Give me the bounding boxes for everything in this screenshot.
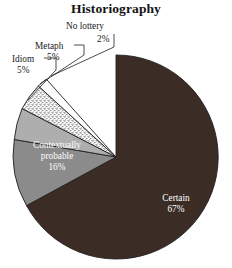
pie-chart-figure: Historiography No lottery 2% Metaph (0, 0, 232, 268)
slice-value-metaph: 5% (47, 52, 59, 62)
slice-value-no-lottery: 2% (97, 34, 109, 44)
slice-label-no-lottery: No lottery (66, 21, 104, 31)
slice-label-certain: Certain 67% (150, 193, 202, 215)
slice-value-certain: 67% (150, 204, 202, 215)
slice-label-metaph: Metaph (35, 41, 63, 51)
slice-label-idiom: Idiom (12, 54, 34, 64)
slice-label-certain-text: Certain (150, 193, 202, 204)
slice-value-contextually-probable: 16% (16, 162, 98, 173)
slice-label-contextually-probable-line2: probable (16, 151, 98, 162)
slice-value-idiom: 5% (17, 65, 29, 75)
slice-label-contextually-probable: Contextually probable 16% (16, 140, 98, 174)
slice-label-contextually-probable-line1: Contextually (16, 140, 98, 151)
